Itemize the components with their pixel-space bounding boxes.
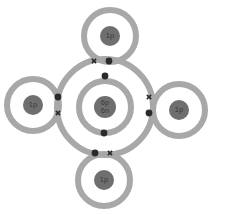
- bond-carbon-hydrogen-bottom-e1-dot-icon: [92, 150, 99, 157]
- dot-and-cross-diagram: 6p6n1p1p1p1p: [0, 0, 235, 214]
- nucleus-label-hydrogen-right-1: 1p: [175, 105, 183, 114]
- nucleus-label-hydrogen-bottom-1: 1p: [100, 175, 108, 184]
- nucleus-label-hydrogen-left-1: 1p: [29, 100, 37, 109]
- molecule-svg: 6p6n1p1p1p1p: [0, 0, 235, 214]
- carbon-inner-electron-top-dot-icon: [102, 73, 109, 80]
- bond-carbon-hydrogen-top-e2-dot-icon: [106, 58, 113, 65]
- bond-carbon-hydrogen-left-e1-dot-icon: [55, 94, 62, 101]
- nucleus-label-carbon-center-2: 6n: [101, 106, 109, 115]
- bond-carbon-hydrogen-right-e2-dot-icon: [146, 110, 153, 117]
- carbon-inner-electron-bottom-dot-icon: [101, 130, 108, 137]
- nucleus-label-hydrogen-top-1: 1p: [106, 31, 114, 40]
